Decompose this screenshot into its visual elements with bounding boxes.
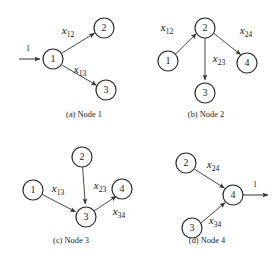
panel-c: 2 1 4 3 x23 x13 x34 (c) Node 3: [23, 147, 132, 245]
node-2-label-panel-c: 2: [80, 151, 85, 162]
node-4-label-panel-b: 4: [245, 57, 250, 68]
edge-1-to-3-panel-c: [42, 194, 76, 211]
edge-label-x34-panel-d: x34: [208, 214, 222, 229]
node-3-label-panel-a: 3: [104, 84, 109, 95]
node-1-label-panel-a: 1: [51, 53, 56, 64]
caption-panel-c: (c) Node 3: [53, 236, 89, 245]
node-3-label-panel-d: 3: [190, 222, 195, 233]
edge-2-to-3-panel-c: [83, 167, 86, 204]
edge-label-x23-panel-c: x23: [93, 179, 107, 194]
figure-container: 1 1 2 3 x12 x13 (a) Node 1 2 1 4: [0, 0, 280, 259]
node-1-label-panel-c: 1: [31, 184, 36, 195]
edge-label-x12-panel-a: x12: [61, 24, 75, 39]
node-2-label-panel-b: 2: [203, 22, 208, 33]
edge-label-x23-panel-b: x23: [212, 52, 226, 67]
node-3-label-panel-c: 3: [84, 211, 89, 222]
node-3-label-panel-b: 3: [203, 87, 208, 98]
node-flow-diagram: 1 1 2 3 x12 x13 (a) Node 1 2 1 4: [0, 0, 280, 259]
edge-label-x12-panel-b: x12: [160, 21, 174, 36]
panel-b: 2 1 4 3 x12 x24 x23 (b) Node 2: [158, 18, 257, 119]
node-4-label-panel-c: 4: [120, 183, 125, 194]
node-2-label-panel-d: 2: [184, 157, 189, 168]
node-1-label-panel-b: 1: [166, 55, 171, 66]
panel-d: 1 2 4 3 x24 x34 (d) Node 4: [176, 153, 268, 245]
edge-label-x24-panel-b: x24: [239, 24, 253, 39]
edge-label-x24-panel-d: x24: [206, 158, 220, 173]
node-4-label-panel-d: 4: [231, 189, 236, 200]
edge-label-x13-panel-a: x13: [73, 63, 87, 78]
external-inflow-label-panel-a: 1: [26, 44, 30, 53]
caption-panel-a: (a) Node 1: [66, 110, 102, 119]
edge-label-x13-panel-c: x13: [51, 182, 65, 197]
node-2-label-panel-a: 2: [102, 22, 107, 33]
edge-label-x34-panel-c: x34: [112, 205, 126, 220]
edge-2-to-4-panel-d: [194, 169, 224, 188]
caption-panel-d: (d) Node 4: [189, 236, 226, 245]
panel-a: 1 1 2 3 x12 x13 (a) Node 1: [19, 18, 116, 119]
caption-panel-b: (b) Node 2: [188, 110, 224, 119]
edge-1-to-2-panel-b: [175, 34, 196, 55]
external-outflow-label-panel-d: 1: [253, 180, 257, 189]
